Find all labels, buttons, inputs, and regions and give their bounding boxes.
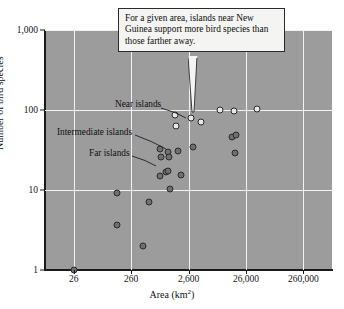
annotation-near-islands: Near islands (115, 99, 161, 109)
annotation-leader-lines (0, 0, 344, 309)
annotation-intermediate-islands: Intermediate islands (57, 127, 132, 137)
chart-figure: 1101001,000 262602,60026,000260,000 Numb… (0, 0, 344, 309)
annotation-far-islands: Far islands (89, 148, 130, 158)
